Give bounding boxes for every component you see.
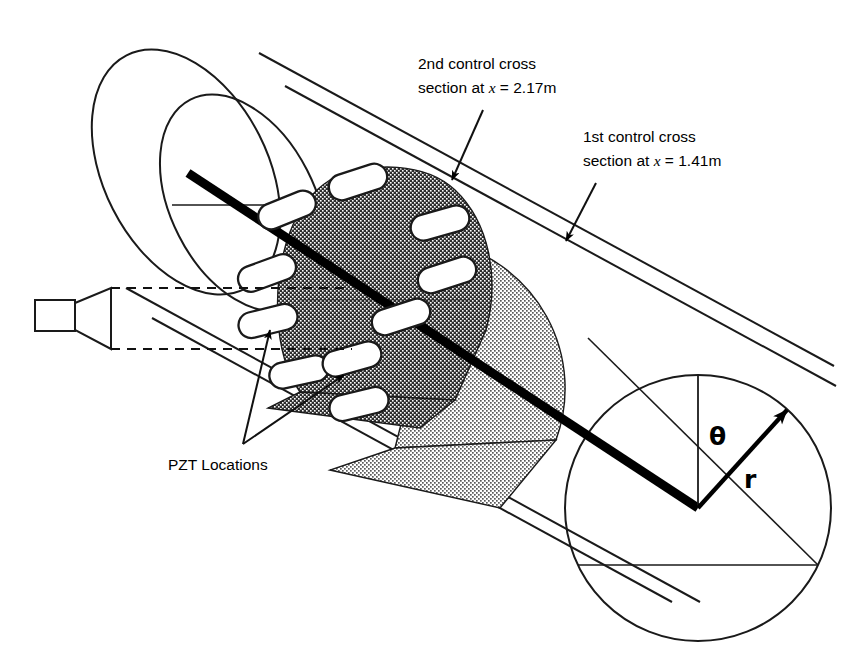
first-section-x-variable: x [653, 152, 661, 169]
first-section-line1: 1st control cross [583, 128, 696, 145]
second-section-line1: 2nd control cross [418, 55, 536, 72]
svg-text:1st control cross: 1st control cross [583, 128, 696, 145]
figure-canvas: θ r 2nd control cross section at x = 2.1… [0, 0, 854, 646]
first-section-line2-pre: section at [583, 152, 654, 169]
first-section-line2-post: = 1.41m [661, 152, 722, 169]
second-section-line2-post: = 2.17m [496, 79, 557, 96]
horn-driver-body [35, 300, 75, 331]
second-section-line2-pre: section at [418, 79, 489, 96]
duct-schematic-svg: θ r 2nd control cross section at x = 2.1… [0, 0, 854, 646]
radius-label: r [744, 465, 757, 494]
svg-text:section at x = 1.41m: section at x = 1.41m [583, 152, 721, 169]
pzt-locations-label: PZT Locations [168, 456, 268, 473]
svg-text:2nd control cross: 2nd control cross [418, 55, 536, 72]
second-section-x-variable: x [488, 79, 496, 96]
svg-text:section at x = 2.17m: section at x = 2.17m [418, 79, 556, 96]
theta-label: θ [709, 422, 726, 451]
